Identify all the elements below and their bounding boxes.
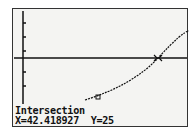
x-value: X=42.418927 <box>15 114 79 127</box>
calculator-screen: Intersection X=42.418927 Y=25 <box>12 8 188 127</box>
intersection-result: X=42.418927 Y=25 <box>15 115 114 126</box>
function-curve <box>85 31 189 100</box>
y-value: Y=25 <box>91 114 114 127</box>
